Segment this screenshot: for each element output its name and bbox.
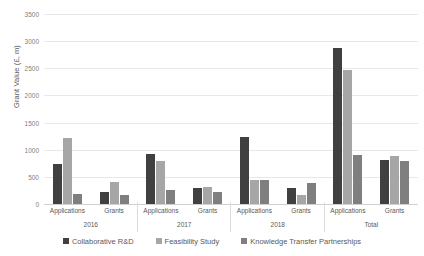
group-label-total: Total	[325, 219, 419, 231]
bar[interactable]	[73, 194, 82, 204]
bar[interactable]	[100, 192, 109, 204]
category-block-2016: ApplicationsGrants	[44, 204, 138, 218]
y-axis-tick-label: 500	[28, 173, 39, 180]
bar-subgroup-applications	[138, 14, 185, 204]
bar[interactable]	[353, 155, 362, 204]
bar-group-2016	[44, 14, 138, 204]
bar[interactable]	[166, 190, 175, 204]
y-axis-tick-label: 3000	[25, 38, 39, 45]
bar[interactable]	[120, 195, 129, 204]
bar[interactable]	[333, 48, 342, 204]
category-label-applications: Applications	[231, 204, 278, 218]
bar[interactable]	[156, 161, 165, 204]
category-block-2018: ApplicationsGrants	[231, 204, 325, 218]
category-label-applications: Applications	[325, 204, 372, 218]
bar-subgroup-grants	[371, 14, 418, 204]
category-block-2017: ApplicationsGrants	[138, 204, 232, 218]
legend-label: Collaborative R&D	[72, 237, 134, 246]
bar[interactable]	[400, 161, 409, 204]
legend-item[interactable]: Feasibility Study	[156, 237, 220, 246]
y-axis-tick-label: 1000	[25, 146, 39, 153]
group-label-2018: 2018	[231, 219, 325, 231]
group-axis: 201620172018Total	[44, 219, 418, 231]
bar[interactable]	[63, 138, 72, 205]
bar[interactable]	[53, 164, 62, 204]
legend-swatch-icon	[241, 238, 247, 244]
group-label-2017: 2017	[138, 219, 232, 231]
category-block-total: ApplicationsGrants	[325, 204, 419, 218]
legend-item[interactable]: Knowledge Transfer Partnerships	[241, 237, 361, 246]
y-axis-tick-label: 0	[35, 201, 39, 208]
bar-subgroup-applications	[44, 14, 91, 204]
bar-group-total	[325, 14, 419, 204]
category-label-applications: Applications	[44, 204, 91, 218]
bar-subgroup-applications	[325, 14, 372, 204]
bar[interactable]	[110, 182, 119, 204]
y-axis-tick-labels: 3500300025002000150010005000	[0, 14, 42, 204]
bar[interactable]	[343, 70, 352, 204]
group-label-2016: 2016	[44, 219, 138, 231]
y-axis-tick-label: 2500	[25, 65, 39, 72]
bar-subgroup-grants	[278, 14, 325, 204]
y-axis-tick-label: 3500	[25, 11, 39, 18]
chart-legend: Collaborative R&DFeasibility StudyKnowle…	[0, 234, 424, 248]
bar[interactable]	[390, 156, 399, 204]
category-label-grants: Grants	[184, 204, 231, 218]
category-label-grants: Grants	[371, 204, 418, 218]
bar-subgroup-grants	[184, 14, 231, 204]
bar[interactable]	[287, 188, 296, 204]
bar[interactable]	[203, 187, 212, 204]
bar-group-2018	[231, 14, 325, 204]
category-label-grants: Grants	[278, 204, 325, 218]
category-axis: ApplicationsGrantsApplicationsGrantsAppl…	[44, 204, 418, 218]
legend-swatch-icon	[156, 238, 162, 244]
bar-subgroup-grants	[91, 14, 138, 204]
y-axis-tick-label: 1500	[25, 119, 39, 126]
legend-swatch-icon	[63, 238, 69, 244]
bar[interactable]	[250, 180, 259, 204]
bar[interactable]	[307, 183, 316, 204]
bar-group-2017	[138, 14, 232, 204]
bar[interactable]	[380, 160, 389, 205]
category-label-grants: Grants	[91, 204, 138, 218]
grant-value-bar-chart: Grant Value (£, m) 350030002500200015001…	[0, 0, 424, 256]
bar-groups	[44, 14, 418, 204]
bar[interactable]	[260, 180, 269, 204]
bar[interactable]	[297, 195, 306, 205]
legend-label: Knowledge Transfer Partnerships	[250, 237, 361, 246]
legend-item[interactable]: Collaborative R&D	[63, 237, 134, 246]
legend-label: Feasibility Study	[165, 237, 220, 246]
category-label-applications: Applications	[138, 204, 185, 218]
bar[interactable]	[193, 188, 202, 204]
bar[interactable]	[146, 154, 155, 204]
plot-area	[44, 14, 418, 204]
y-axis-tick-label: 2000	[25, 92, 39, 99]
bar-subgroup-applications	[231, 14, 278, 204]
bar[interactable]	[213, 192, 222, 204]
bar[interactable]	[240, 137, 249, 204]
